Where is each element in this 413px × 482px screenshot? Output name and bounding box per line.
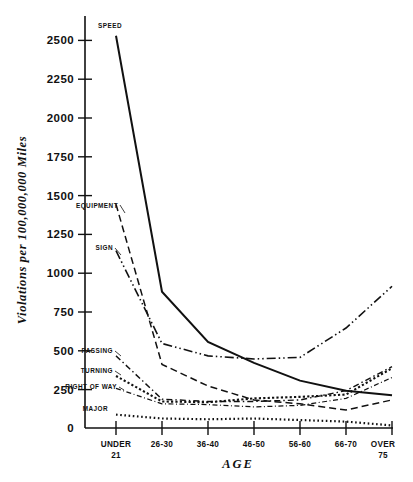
y-tick-label: 2000: [47, 112, 74, 124]
series-label-speed: SPEED: [98, 22, 122, 29]
y-tick-label: 0: [67, 422, 74, 434]
x-tick-label: 26-30: [151, 440, 174, 449]
x-ticks: UNDER 21 26-30 36-40 46-50 56-60 66-70 O…: [101, 421, 396, 460]
series-label-turning: TURNING: [81, 367, 113, 374]
x-tick-label-2: 21: [111, 451, 121, 460]
y-tick-label: 1750: [47, 151, 74, 163]
y-tick-label: 1000: [47, 267, 74, 279]
series-label-sign: SIGN: [96, 244, 113, 251]
chart-figure: Violations per 100,000,000 Miles 2500 22…: [0, 0, 413, 482]
y-tick-label: 1250: [47, 228, 74, 240]
x-tick-label: UNDER: [101, 440, 132, 449]
series-group: [116, 36, 392, 426]
x-tick-label: OVER: [371, 440, 395, 449]
x-tick-label: 46-50: [243, 440, 266, 449]
y-tick-label: 2250: [47, 73, 74, 85]
y-axis-title: Violations per 100,000,000 Miles: [15, 136, 29, 324]
series-label-major: MAJOR: [83, 405, 108, 412]
x-tick-label: 36-40: [197, 440, 220, 449]
line-chart: Violations per 100,000,000 Miles 2500 22…: [0, 0, 413, 482]
leader-line-equipment: [120, 205, 125, 213]
x-axis-title: AGE: [221, 457, 254, 471]
series-line-equipment: [116, 204, 392, 410]
series-line-right-of-way: [116, 378, 392, 407]
series-line-speed: [116, 36, 392, 396]
series-line-turning: [116, 368, 392, 402]
series-labels: SPEED EQUIPMENT SIGN PASSING TURNING RIG…: [65, 22, 125, 412]
series-label-passing: PASSING: [82, 347, 113, 354]
y-tick-label: 2500: [47, 34, 74, 46]
leader-line-passing: [115, 351, 121, 356]
leader-line-turning: [115, 371, 121, 375]
x-tick-label-2: 75: [378, 451, 388, 460]
series-label-equipment: EQUIPMENT: [76, 202, 118, 210]
y-tick-label: 750: [54, 306, 74, 318]
x-tick-label: 66-70: [335, 440, 358, 449]
x-tick-label: 56-60: [289, 440, 312, 449]
y-tick-label: 500: [54, 345, 74, 357]
series-label-right-of-way: RIGHT OF WAY: [65, 383, 117, 390]
axes: [85, 16, 393, 428]
y-tick-label: 1500: [47, 190, 74, 202]
